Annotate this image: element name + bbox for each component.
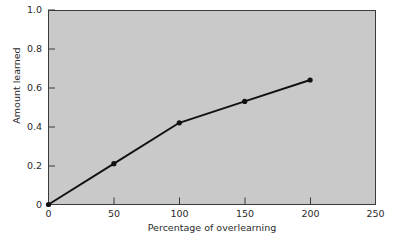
x-tick-label-250: 250 xyxy=(356,208,393,220)
x-tick-label-100: 100 xyxy=(160,208,200,220)
x-tick-label-50: 50 xyxy=(94,208,134,220)
chart-figure: 1.0 0.8 0.6 0.4 0.2 0 0 50 100 150 200 2… xyxy=(0,0,393,241)
x-tick-label-150: 150 xyxy=(225,208,265,220)
y-axis-label: Amount learned xyxy=(11,38,22,134)
y-tick-label-0.2: 0.2 xyxy=(8,161,42,171)
x-tick-label-200: 200 xyxy=(291,208,331,220)
plot-area xyxy=(48,10,376,205)
x-tick-label-0: 0 xyxy=(29,208,69,220)
y-tick-label-1.0: 1.0 xyxy=(8,5,42,15)
x-axis-label: Percentage of overlearning xyxy=(48,222,376,233)
